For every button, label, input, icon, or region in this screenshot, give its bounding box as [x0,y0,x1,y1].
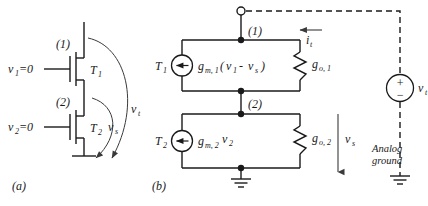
panel-b-gm1-vs-sub: s [255,66,258,75]
panel-a-v1-tail: =0 [19,62,33,76]
panel-a-node1-label: (1) [56,37,70,51]
panel-b-analog-ground-line1: Analog [371,143,402,154]
panel-b-gm1-paren-open: ( [220,59,225,73]
panel-a-vt-sub: t [138,109,141,118]
panel-b-go1-label: g o, 1 [312,57,331,73]
panel-b-ground-symbol [231,179,251,187]
panel-b-upper-mid-dot [238,88,244,94]
panel-b-t1-base: T [155,59,163,73]
panel-a-caption: (a) [12,179,26,193]
panel-b-gm2-sub: m, 2 [205,141,219,150]
panel-b-go1-sub: o, 1 [319,64,331,73]
panel-b-group: i t (1) T 1 [152,7,428,193]
panel-b-vt-minus-sign: − [396,88,404,102]
circuit-canvas: (1) (2) T 1 T 2 v 1 =0 v 2 =0 [0,0,428,206]
panel-b-gm2-v-sub: 2 [229,139,233,148]
panel-b-go2-resistor [294,126,306,154]
panel-b-t2-label: T 2 [155,134,167,150]
panel-a-vs-label: v s [108,120,118,136]
panel-b-analog-ground-symbol [390,176,410,184]
panel-a-transistor-t1 [44,22,84,92]
panel-a-t2-sub: 2 [98,128,102,137]
panel-b-go2-label: g o, 2 [312,131,331,147]
panel-b-go1-base: g [312,57,318,71]
panel-b-node1-label: (1) [248,24,262,38]
panel-a-vt-arrow [88,38,128,158]
panel-b-vs-label: v s [345,132,355,148]
panel-a-vs-base: v [108,120,114,134]
panel-b-gm1-base: g [198,59,204,73]
panel-b-it-base: i [306,33,309,47]
panel-b-t1-label: T 1 [155,59,167,75]
panel-b-t2-base: T [155,134,163,148]
panel-a-t1-base: T [90,63,98,77]
panel-a-v2-tail: =0 [19,120,33,134]
panel-b-vt-label: v t [418,81,428,97]
panel-a-t2-label: T 2 [90,121,102,137]
panel-b-caption: (b) [152,179,166,193]
panel-b-vs-base: v [345,132,351,146]
panel-a-v1-base: v [8,62,14,76]
panel-b-node1-dot [238,37,244,43]
panel-a-v2-base: v [8,120,14,134]
panel-b-gm1-v1-sub: 1 [233,66,237,75]
panel-b-node2-label: (2) [248,97,262,111]
panel-b-gm1-v1-base: v [226,59,232,73]
panel-b-t2-sub: 2 [163,141,167,150]
panel-a-t2-base: T [90,121,98,135]
panel-b-gm2-expression: g m, 2 v 2 [198,132,233,150]
panel-b-gm2-base: g [198,134,204,148]
panel-b-go2-sub: o, 2 [319,138,331,147]
panel-b-it-label: i t [306,33,313,49]
panel-b-open-terminal [237,7,245,15]
panel-a-vt-base: v [131,102,137,116]
panel-a-v1-label: v 1 =0 [8,62,33,78]
panel-b-gm1-paren-close: ) [260,59,265,73]
panel-b-gm1-vs-base: v [248,59,254,73]
panel-b-analog-ground-line2: ground [372,155,403,166]
panel-b-go2-base: g [312,131,318,145]
panel-a-vs-sub: s [115,127,118,136]
panel-b-t1-sub: 1 [163,66,167,75]
panel-b-gm1-minus: - [239,59,243,73]
panel-b-analog-ground-label: Analog ground [371,143,403,166]
panel-b-gm1-sub: m, 1 [205,66,219,75]
panel-b-gm1-expression: g m, 1 ( v 1 - v s ) [198,59,265,75]
circuit-figure: (1) (2) T 1 T 2 v 1 =0 v 2 =0 [0,0,428,206]
panel-a-vt-label: v t [131,102,141,118]
panel-a-v2-label: v 2 =0 [8,120,33,136]
panel-b-go1-resistor [294,52,306,80]
panel-b-vt-base: v [418,81,424,95]
panel-b-it-sub: t [310,40,313,49]
panel-a-t1-sub: 1 [98,70,102,79]
panel-a-group: (1) (2) T 1 T 2 v 1 =0 v 2 =0 [8,22,141,193]
panel-a-node2-label: (2) [56,95,70,109]
panel-a-t1-label: T 1 [90,63,102,79]
panel-b-vs-sub: s [352,139,355,148]
panel-b-gm2-v-base: v [222,132,228,146]
